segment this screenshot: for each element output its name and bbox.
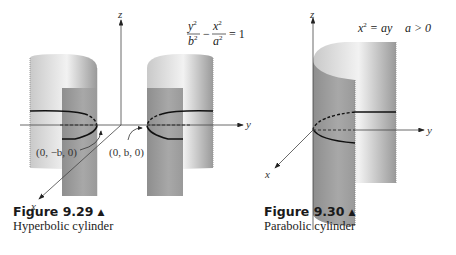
x-axis-label-2: x <box>264 168 270 180</box>
point-label-pos-b: (0, b, 0) <box>109 146 144 159</box>
svg-text:x2 = ay: x2 = ay <box>357 21 393 35</box>
figure-number: Figure 9.30 <box>264 204 345 219</box>
figure-number: Figure 9.29 <box>13 204 94 219</box>
triangle-marker-icon: ▲ <box>98 207 105 217</box>
hyperbolic-equation: y2 b2 − x2 a2 = 1 <box>187 19 245 48</box>
svg-text:x2: x2 <box>212 19 222 33</box>
figure-title: Parabolic cylinder <box>264 219 355 233</box>
figure-title: Hyperbolic cylinder <box>13 219 113 233</box>
figure-9-29-caption: Figure 9.29▲ Hyperbolic cylinder <box>13 205 113 233</box>
svg-text:−: − <box>203 27 210 41</box>
z-axis-label-2: z <box>309 8 315 20</box>
parabolic-cylinder-figure: z y x x2 = ay a > 0 <box>264 8 432 230</box>
figure-9-30-caption: Figure 9.30▲ Parabolic cylinder <box>264 205 355 233</box>
y-axis-label-2: y <box>426 124 432 136</box>
x-axis-2 <box>275 130 313 168</box>
svg-text:y2: y2 <box>187 19 197 33</box>
triangle-marker-icon: ▲ <box>349 207 356 217</box>
svg-text:= 1: = 1 <box>229 27 245 41</box>
svg-text:a2: a2 <box>213 34 223 48</box>
z-axis-label: z <box>117 8 123 20</box>
point-label-neg-b: (0, −b, 0) <box>36 146 77 159</box>
parabolic-equation: x2 = ay a > 0 <box>357 21 431 35</box>
hyperbolic-cylinder-figure: z y x (0, −b, 0) (0, b, 0) y2 b2 − x2 a2… <box>20 8 251 212</box>
svg-text:a > 0: a > 0 <box>405 21 431 35</box>
y-axis-label: y <box>245 118 251 130</box>
svg-text:b2: b2 <box>188 34 198 48</box>
